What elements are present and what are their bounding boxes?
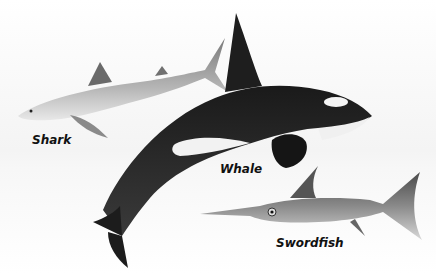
whale-label: Whale	[220, 162, 262, 176]
swordfish-figure	[200, 166, 422, 240]
whale-figure	[93, 13, 372, 268]
marine-animals-illustration: Shark Whale Swordfish	[0, 0, 436, 273]
shark-label: Shark	[32, 133, 71, 147]
swordfish-label: Swordfish	[276, 236, 344, 250]
